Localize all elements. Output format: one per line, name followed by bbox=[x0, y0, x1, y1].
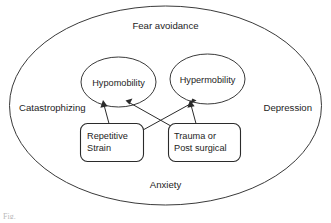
label-fear-avoidance: Fear avoidance bbox=[132, 20, 198, 31]
node-trauma-post-surgical-label-line2: Post surgical bbox=[174, 143, 227, 153]
label-catastrophizing: Catastrophizing bbox=[19, 102, 86, 113]
diagram-svg: Fear avoidance Catastrophizing Depressio… bbox=[0, 0, 331, 223]
label-anxiety: Anxiety bbox=[150, 179, 182, 190]
caption-fragment: Fig. bbox=[3, 212, 49, 219]
label-depression: Depression bbox=[263, 102, 312, 113]
node-trauma-post-surgical-label-line1: Trauma or bbox=[174, 131, 216, 141]
node-repetitive-strain-label-line1: Repetitive bbox=[87, 131, 128, 141]
diagram-canvas: Fear avoidance Catastrophizing Depressio… bbox=[0, 0, 331, 223]
node-hypomobility-label: Hypomobility bbox=[92, 78, 145, 88]
node-repetitive-strain-label-line2: Strain bbox=[87, 143, 111, 153]
node-hypermobility-label: Hypermobility bbox=[180, 75, 236, 85]
